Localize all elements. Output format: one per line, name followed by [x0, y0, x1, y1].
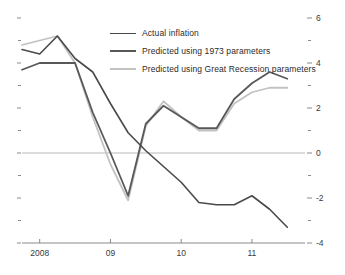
legend-swatch-predicted-great-recession [110, 68, 136, 70]
y-axis-label-2: 2 [316, 103, 321, 113]
legend-label-actual-inflation: Actual inflation [142, 28, 199, 38]
y-axis-label-neg2: -2 [316, 193, 324, 203]
y-axis-label-6: 6 [316, 13, 321, 23]
y-axis-label-4: 4 [316, 58, 321, 68]
series-line-predicted-1973 [22, 63, 287, 196]
legend-label-predicted-great-recession: Predicted using Great Recession paramete… [142, 64, 316, 74]
y-axis-label-0: 0 [316, 148, 321, 158]
x-axis-label-2008: 2008 [22, 248, 58, 258]
legend-item-actual-inflation: Actual inflation [110, 26, 316, 40]
inflation-forecast-chart: Actual inflation Predicted using 1973 pa… [0, 0, 345, 275]
x-axis-label-11: 11 [234, 248, 270, 258]
legend-item-predicted-1973: Predicted using 1973 parameters [110, 44, 316, 58]
y-axis-label-neg4: -4 [316, 238, 324, 248]
legend-swatch-predicted-1973 [110, 50, 136, 52]
legend-swatch-actual-inflation [110, 33, 136, 34]
chart-legend: Actual inflation Predicted using 1973 pa… [110, 26, 316, 80]
x-axis-label-09: 09 [92, 248, 128, 258]
x-axis-label-10: 10 [163, 248, 199, 258]
legend-label-predicted-1973: Predicted using 1973 parameters [142, 46, 270, 56]
legend-item-predicted-great-recession: Predicted using Great Recession paramete… [110, 62, 316, 76]
